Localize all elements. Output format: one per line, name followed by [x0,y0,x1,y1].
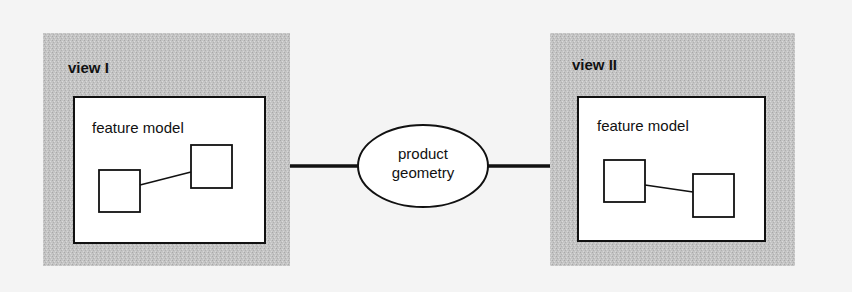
feature-node-2a [604,160,645,202]
feature-node-1a [99,170,140,212]
feature-model-label-1: feature model [92,119,184,136]
view-1-panel: view I feature model [43,33,290,266]
feature-model-label-2: feature model [597,117,689,134]
product-geometry-node: product geometry [358,125,488,207]
feature-model-box-1: feature model [74,97,265,243]
view-2-label: view II [572,56,617,73]
product-geometry-line2: geometry [392,164,455,181]
product-geometry-line1: product [398,145,449,162]
feature-model-box-2: feature model [578,97,765,241]
view-1-label: view I [68,59,109,76]
view-2-panel: view II feature model [550,33,795,266]
diagram-canvas: view I feature model view II feature mod… [0,0,852,292]
feature-node-1b [191,145,232,188]
feature-node-2b [693,174,734,217]
